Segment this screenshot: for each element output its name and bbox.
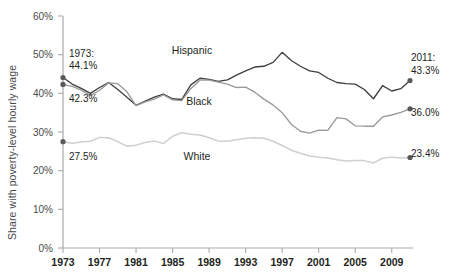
- series-lines-group: [63, 52, 410, 163]
- x-tick-label: 2001: [307, 256, 331, 268]
- y-tick-label: 60%: [33, 11, 53, 22]
- series-labels-group: HispanicBlackWhite: [172, 44, 213, 162]
- series-label-white: White: [184, 150, 211, 162]
- x-tick-label: 2005: [344, 256, 368, 268]
- x-tick-label: 1989: [197, 256, 221, 268]
- start-year-1973: 1973:: [69, 48, 94, 59]
- start-value-black: 42.3%: [69, 93, 97, 104]
- line-chart: Share with poverty-level hourly wage 0%1…: [0, 0, 451, 279]
- y-tick-label: 0%: [39, 243, 54, 254]
- y-tick-label: 40%: [33, 88, 53, 99]
- y-tick-label: 50%: [33, 49, 53, 60]
- x-tick-label: 1977: [88, 256, 112, 268]
- series-endpoint-hispanic-end: [407, 78, 412, 83]
- y-axis-ticks: 0%10%20%30%40%50%60%: [33, 11, 63, 254]
- y-tick-label: 30%: [33, 127, 53, 138]
- x-tick-label: 1993: [234, 256, 258, 268]
- x-tick-label: 1973: [51, 256, 75, 268]
- y-tick-label: 10%: [33, 204, 53, 215]
- x-tick-label: 1981: [124, 256, 148, 268]
- x-tick-label: 2009: [380, 256, 404, 268]
- series-label-hispanic: Hispanic: [172, 44, 212, 56]
- y-tick-label: 20%: [33, 165, 53, 176]
- series-endpoint-hispanic-start: [60, 75, 65, 80]
- series-line-hispanic: [63, 52, 410, 105]
- y-axis-title: Share with poverty-level hourly wage: [6, 65, 18, 240]
- x-tick-label: 1997: [270, 256, 294, 268]
- series-endpoint-white-start: [60, 139, 65, 144]
- end-year-2011: 2011:: [411, 52, 435, 63]
- end-value-hispanic: 43.3%: [411, 65, 439, 76]
- chart-container: Share with poverty-level hourly wage 0%1…: [0, 0, 451, 279]
- x-axis-ticks: 1973197719811985198919931997200120052009: [51, 248, 403, 268]
- series-line-white: [63, 133, 410, 163]
- start-value-white: 27.5%: [69, 151, 97, 162]
- x-tick-label: 1985: [161, 256, 185, 268]
- end-value-black: 36.0%: [411, 107, 439, 118]
- series-label-black: Black: [186, 95, 212, 107]
- start-value-hispanic: 44.1%: [69, 60, 97, 71]
- series-endpoint-black-start: [60, 82, 65, 87]
- end-value-white: 23.4%: [411, 148, 439, 159]
